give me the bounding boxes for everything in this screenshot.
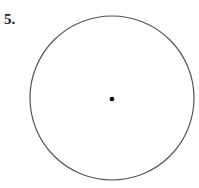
circle-figure	[0, 0, 199, 188]
center-point	[110, 97, 115, 102]
